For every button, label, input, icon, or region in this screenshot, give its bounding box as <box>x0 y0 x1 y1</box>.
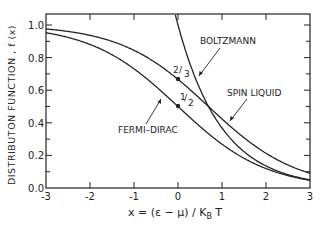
plot-frame <box>46 14 310 188</box>
half-den: 2 <box>188 98 194 108</box>
two-thirds-point <box>176 77 180 81</box>
boltzmann-arrow <box>199 48 220 76</box>
chart: -3-2-10123 0.00.20.40.60.81.0 BOLTZMANN … <box>0 0 324 228</box>
y-tick-label: 0.6 <box>28 85 44 96</box>
two-thirds-slash: / <box>179 65 183 75</box>
y-tick-label: 0.4 <box>28 118 44 129</box>
two-thirds-num: 2 <box>173 65 179 75</box>
x-tick-label: 0 <box>175 191 181 202</box>
y-tick-label: 0.8 <box>28 53 44 64</box>
spin-liquid-curve <box>46 29 310 173</box>
spin-liquid-label: SPIN LIQUID <box>227 88 281 98</box>
y-tick-label: 0.0 <box>28 183 44 194</box>
x-tick-label: 1 <box>219 191 225 202</box>
x-tick-label: -2 <box>85 191 95 202</box>
x-tick-label: 3 <box>307 191 313 202</box>
fermi-dirac-arrow <box>146 99 161 124</box>
half-point <box>176 104 180 108</box>
x-axis-label: x = (ε − μ) / KB T <box>128 206 222 221</box>
x-tick-label: 2 <box>263 191 269 202</box>
y-tick-label: 1.0 <box>28 20 44 31</box>
boltzmann-label: BOLTZMANN <box>200 36 256 46</box>
fermi-dirac-label: FERMI–DIRAC <box>118 125 178 135</box>
y-axis: 0.00.20.40.60.81.0 <box>28 20 310 194</box>
y-tick-label: 0.2 <box>28 150 44 161</box>
two-thirds-den: 3 <box>184 69 190 79</box>
y-axis-label: DISTRIBUTON FUNCTION , f (x) <box>6 25 17 185</box>
x-tick-label: -1 <box>129 191 139 202</box>
